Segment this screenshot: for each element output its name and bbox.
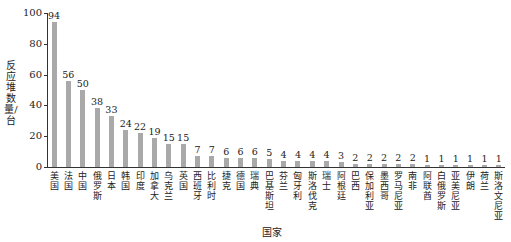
x-category-label: 阿联酋 (422, 171, 433, 201)
x-category-label: 捷克 (221, 171, 232, 191)
x-category-label: 法国 (63, 171, 74, 191)
bar-value-label: 94 (44, 11, 64, 21)
bar (52, 22, 57, 167)
bar (252, 158, 257, 167)
bar-value-label: 15 (173, 133, 193, 143)
x-category-label: 瑞士 (321, 171, 332, 191)
x-category-label: 芬兰 (278, 171, 289, 191)
x-category-label: 墨西哥 (379, 171, 390, 201)
bar (410, 164, 415, 167)
bar (195, 156, 200, 167)
bar (353, 164, 358, 167)
bar (482, 165, 487, 167)
y-tick (44, 167, 47, 168)
y-axis-label: 反应堆数量/台 (4, 60, 18, 126)
y-tick-label: 40 (18, 100, 42, 110)
x-axis-line (47, 167, 505, 168)
y-tick-label: 20 (18, 131, 42, 141)
bar (295, 161, 300, 167)
x-category-label: 斯洛伐克 (307, 171, 318, 211)
x-category-label: 英国 (178, 171, 189, 191)
bar (152, 138, 157, 167)
y-tick (44, 136, 47, 137)
x-category-label: 伊朗 (465, 171, 476, 191)
bar (267, 159, 272, 167)
x-category-label: 美国 (49, 171, 60, 191)
bar (281, 161, 286, 167)
x-category-label: 印度 (135, 171, 146, 191)
bar (123, 130, 128, 167)
x-category-label: 日本 (106, 171, 117, 191)
y-tick-label: 60 (18, 70, 42, 80)
bar-value-label: 33 (101, 105, 121, 115)
bar (238, 158, 243, 167)
bar (109, 116, 114, 167)
y-tick-label: 100 (18, 8, 42, 18)
bar-value-label: 50 (73, 79, 93, 89)
bar (396, 164, 401, 167)
bar (138, 133, 143, 167)
bar (310, 161, 315, 167)
x-category-label: 亚美尼亚 (450, 171, 461, 211)
y-tick-label: 80 (18, 39, 42, 49)
x-axis-label: 国家 (262, 224, 282, 239)
x-category-label: 瑞典 (249, 171, 260, 191)
bar (339, 162, 344, 167)
x-category-label: 加拿大 (149, 171, 160, 201)
x-category-label: 荷兰 (479, 171, 490, 191)
bar (209, 156, 214, 167)
x-category-label: 南非 (407, 171, 418, 191)
bar (468, 165, 473, 167)
bar-value-label: 1 (489, 154, 509, 164)
bar (382, 164, 387, 167)
y-axis-line (47, 13, 48, 168)
x-category-label: 罗马尼亚 (393, 171, 404, 211)
bar (95, 108, 100, 167)
bar (425, 165, 430, 167)
x-category-label: 斯洛文尼亚 (493, 171, 504, 221)
y-tick-label: 0 (18, 162, 42, 172)
bar (66, 81, 71, 167)
bar (80, 90, 85, 167)
bar (439, 165, 444, 167)
x-category-label: 巴基斯坦 (264, 171, 275, 211)
x-category-label: 中国 (77, 171, 88, 191)
x-category-label: 乌克兰 (163, 171, 174, 201)
bar (166, 144, 171, 167)
x-category-label: 俄罗斯 (92, 171, 103, 201)
bar (453, 165, 458, 167)
x-category-label: 匈牙利 (292, 171, 303, 201)
x-category-label: 阿根廷 (336, 171, 347, 201)
y-tick (44, 75, 47, 76)
bar-chart: 020406080100 94美国56法国50中国38俄罗斯33日本24韩国22… (0, 0, 511, 242)
y-tick (44, 105, 47, 106)
bar (367, 164, 372, 167)
x-category-label: 比利时 (206, 171, 217, 201)
bar (324, 161, 329, 167)
x-category-label: 韩国 (120, 171, 131, 191)
y-tick (44, 44, 47, 45)
x-category-label: 西班牙 (192, 171, 203, 201)
x-category-label: 白俄罗斯 (436, 171, 447, 211)
bar (224, 158, 229, 167)
bar (496, 165, 501, 167)
bar (181, 144, 186, 167)
x-category-label: 德国 (235, 171, 246, 191)
x-category-label: 保加利亚 (364, 171, 375, 211)
x-category-label: 巴西 (350, 171, 361, 191)
